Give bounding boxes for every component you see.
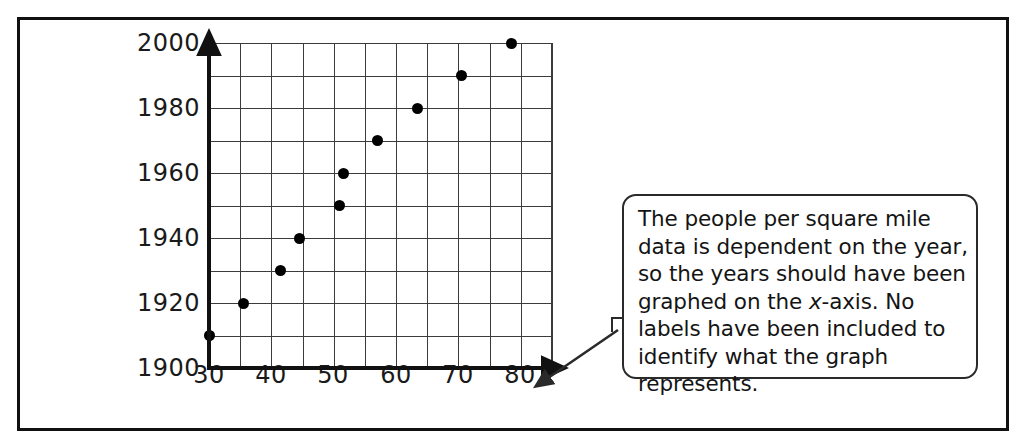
data-point bbox=[372, 135, 383, 146]
callout-pointer-arrow bbox=[548, 330, 618, 378]
callout-box: The people per square mile data is depen… bbox=[622, 194, 978, 379]
gridline-horizontal bbox=[209, 108, 552, 109]
data-point bbox=[412, 103, 423, 114]
gridline-horizontal bbox=[209, 206, 552, 207]
gridline-horizontal bbox=[209, 43, 552, 44]
data-point bbox=[338, 168, 349, 179]
gridline-horizontal bbox=[209, 303, 552, 304]
gridline-horizontal bbox=[209, 173, 552, 174]
data-point bbox=[334, 200, 345, 211]
gridline-vertical bbox=[552, 43, 553, 368]
y-tick-label: 2000 bbox=[110, 31, 200, 55]
callout-tail bbox=[612, 318, 622, 332]
y-tick-label: 1920 bbox=[110, 291, 200, 315]
y-tick-label: 1940 bbox=[110, 226, 200, 250]
data-point bbox=[275, 265, 286, 276]
data-point bbox=[204, 330, 215, 341]
y-tick-label: 1980 bbox=[110, 96, 200, 120]
gridline-horizontal bbox=[209, 368, 552, 369]
italic-x-variable: x bbox=[809, 289, 822, 314]
gridline-horizontal bbox=[209, 336, 552, 337]
data-point bbox=[456, 70, 467, 81]
plot-area bbox=[209, 43, 552, 368]
data-point bbox=[294, 233, 305, 244]
gridline-horizontal bbox=[209, 238, 552, 239]
screenshot-page: 2000 1980 1960 1940 1920 1900 30 40 50 6… bbox=[0, 0, 1025, 447]
gridline-horizontal bbox=[209, 271, 552, 272]
gridline-horizontal bbox=[209, 76, 552, 77]
y-tick-label: 1960 bbox=[110, 161, 200, 185]
callout-text: The people per square mile data is depen… bbox=[638, 205, 972, 398]
data-point bbox=[238, 298, 249, 309]
data-point bbox=[506, 38, 517, 49]
